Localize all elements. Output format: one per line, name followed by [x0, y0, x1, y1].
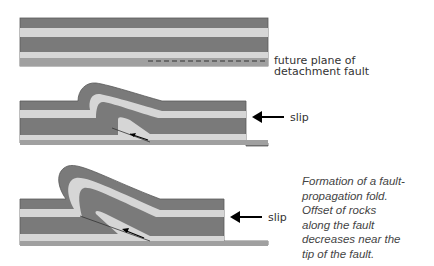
panel-undeformed [20, 18, 268, 66]
label-detachment-fault: detachment fault [274, 66, 369, 77]
caption: Formation of a fault- propagation fold. … [302, 174, 432, 261]
label-slip-1: slip [290, 112, 309, 123]
panel-early-fold [20, 83, 268, 146]
slip-arrow-1 [252, 111, 284, 123]
panel-late-fold [20, 165, 268, 246]
slip-arrow-2 [230, 211, 262, 223]
label-slip-2: slip [268, 212, 287, 223]
